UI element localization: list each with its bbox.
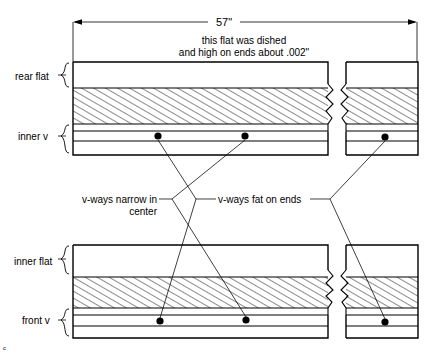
dimension-arrow-right-icon: [408, 19, 417, 24]
leader-narrow-to-rear-center-right: [172, 140, 245, 199]
rear-section-hatch-right: [346, 88, 418, 124]
note-line-2: and high on ends about .002": [179, 47, 310, 58]
measure-dot-rear-center-right: [241, 132, 248, 139]
front-section-hatch-left: [73, 277, 328, 308]
note-line-1: this flat was dished: [202, 35, 287, 46]
rear-section-hatch-left: [73, 88, 328, 124]
front-bed-section-right: [341, 245, 418, 338]
inner-v-top-annotation: inner v: [18, 125, 69, 153]
inner-v-top-label: inner v: [18, 131, 48, 142]
rear-bed-section-left: [73, 62, 333, 155]
front-section-hatch-right: [346, 277, 418, 308]
measure-dot-rear-end-right: [381, 133, 388, 140]
callout-narrow-in-center: v-ways narrow in center: [82, 194, 172, 217]
diagram-canvas: 57" this flat was dished and high on end…: [0, 0, 437, 354]
dimension-label: 57": [216, 16, 232, 28]
rear-flat-label: rear flat: [15, 71, 49, 82]
rear-flat-annotation: rear flat: [15, 63, 69, 87]
inner-flat-label: inner flat: [14, 256, 53, 267]
callout-fat-label: v-ways fat on ends: [218, 194, 301, 205]
callout-narrow-line-2: center: [129, 206, 157, 217]
measure-dot-front-end-right: [381, 318, 388, 325]
scan-artifact-mark: c: [3, 345, 6, 351]
callout-narrow-line-1: v-ways narrow in: [82, 194, 157, 205]
inner-v-top-brace-icon: [61, 125, 69, 153]
measure-dot-rear-center-left: [154, 132, 161, 139]
inner-flat-annotation: inner flat: [14, 246, 69, 274]
lathe-bed-wear-diagram: 57" this flat was dished and high on end…: [0, 0, 437, 354]
inner-flat-brace-icon: [61, 246, 69, 274]
leader-fat-to-rear-end-right: [330, 141, 385, 199]
front-v-brace-icon: [61, 309, 69, 336]
front-v-label: front v: [22, 315, 50, 326]
rear-bed-section-right: [341, 62, 418, 155]
measure-dot-front-center-right: [242, 316, 249, 323]
front-bed-section-left: [73, 245, 333, 338]
front-v-annotation: front v: [22, 309, 69, 336]
leader-fat-to-rear-center-left: [158, 140, 196, 199]
callout-fat-on-ends: v-ways fat on ends: [196, 194, 330, 205]
measure-dot-front-center-left: [156, 317, 163, 324]
dished-flat-note: this flat was dished and high on ends ab…: [179, 35, 310, 58]
dimension-arrow-left-icon: [73, 19, 82, 24]
